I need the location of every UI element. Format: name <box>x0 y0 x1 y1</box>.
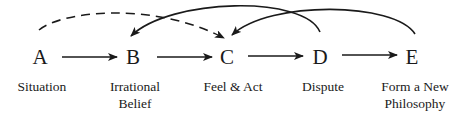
node-e: E <box>397 45 427 69</box>
node-c: C <box>212 45 242 69</box>
arc-d-to-b <box>131 6 320 36</box>
node-a: A <box>25 45 55 69</box>
label-form-new-philosophy: Form a New Philosophy <box>355 78 463 112</box>
node-b: B <box>118 45 148 69</box>
node-d: D <box>305 45 335 69</box>
arc-e-to-c <box>232 9 415 35</box>
dashed-arc-a-to-c <box>39 13 224 38</box>
